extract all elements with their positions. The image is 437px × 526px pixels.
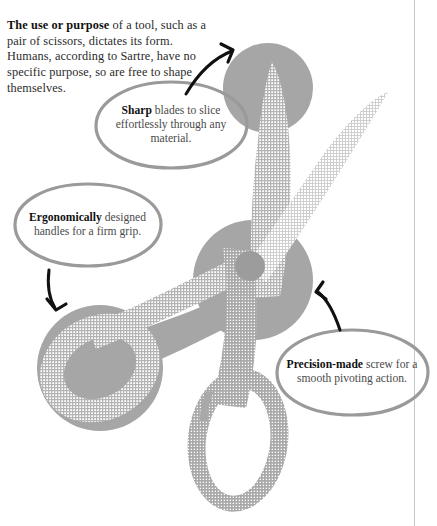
page-canvas: The use or purpose of a tool, such as a …	[0, 0, 437, 526]
callout-ergonomically-text: Ergonomically designed handles for a fir…	[14, 211, 161, 239]
pivot-screw	[235, 251, 265, 281]
callout-sharp: Sharp blades to slice effortlessly throu…	[96, 82, 246, 168]
callout-sharp-lead: Sharp	[122, 104, 152, 117]
callout-ergonomically: Ergonomically designed handles for a fir…	[14, 184, 161, 266]
callout-sharp-text: Sharp blades to slice effortlessly throu…	[96, 104, 246, 147]
callout-precision-text: Precision-made screw for a smooth pivoti…	[276, 358, 428, 386]
callout-precision-lead: Precision-made	[287, 358, 363, 371]
callout-ergonomically-lead: Ergonomically	[29, 211, 102, 224]
callout-precision: Precision-made screw for a smooth pivoti…	[276, 330, 428, 414]
intro-lead: The use or purpose	[7, 18, 109, 32]
